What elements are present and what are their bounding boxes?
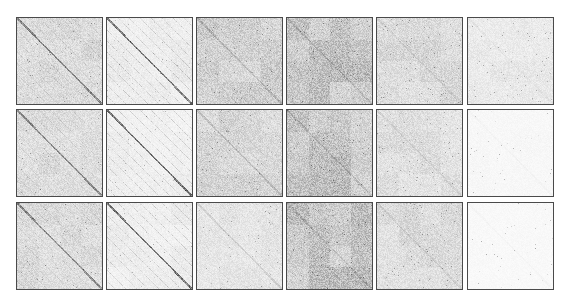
heatmap-panel-r1-c4 (376, 109, 463, 197)
heatmap-panel-r2-c4 (376, 202, 463, 290)
heatmap-panel-r0-c2 (196, 17, 283, 105)
heatmap-canvas (17, 110, 102, 196)
heatmap-canvas (197, 18, 282, 104)
heatmap-panel-r1-c5 (467, 109, 554, 197)
heatmap-canvas (197, 110, 282, 196)
heatmap-canvas (197, 203, 282, 289)
heatmap-canvas (287, 110, 372, 196)
heatmap-canvas (17, 18, 102, 104)
heatmap-panel-r0-c0 (16, 17, 103, 105)
heatmap-panel-r1-c1 (106, 109, 193, 197)
heatmap-panel-r2-c0 (16, 202, 103, 290)
heatmap-canvas (287, 18, 372, 104)
heatmap-panel-r0-c3 (286, 17, 373, 105)
heatmap-canvas (468, 110, 553, 196)
heatmap-panel-r0-c1 (106, 17, 193, 105)
heatmap-canvas (468, 18, 553, 104)
heatmap-panel-r1-c3 (286, 109, 373, 197)
heatmap-panel-r1-c0 (16, 109, 103, 197)
heatmap-canvas (468, 203, 553, 289)
heatmap-canvas (107, 203, 192, 289)
heatmap-canvas (377, 203, 462, 289)
heatmap-canvas (377, 110, 462, 196)
heatmap-canvas (287, 203, 372, 289)
heatmap-canvas (107, 110, 192, 196)
heatmap-panel-r0-c5 (467, 17, 554, 105)
heatmap-panel-r1-c2 (196, 109, 283, 197)
heatmap-panel-r2-c3 (286, 202, 373, 290)
heatmap-canvas (17, 203, 102, 289)
heatmap-panel-r0-c4 (376, 17, 463, 105)
heatmap-panel-r2-c1 (106, 202, 193, 290)
heatmap-panel-r2-c5 (467, 202, 554, 290)
heatmap-canvas (377, 18, 462, 104)
heatmap-grid (0, 0, 568, 305)
heatmap-panel-r2-c2 (196, 202, 283, 290)
heatmap-canvas (107, 18, 192, 104)
